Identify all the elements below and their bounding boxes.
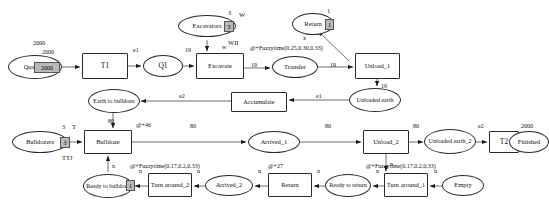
node-label: Q1	[158, 62, 167, 70]
node-label: Turn around_1	[387, 182, 426, 189]
lbl-t-bulldozers: T	[72, 123, 76, 130]
lbl-fuzzy27: @+27	[268, 163, 283, 169]
node-transfer[interactable]: Transfer	[272, 56, 318, 78]
node-label: Accumulate	[243, 99, 274, 106]
lbl-quantity-2000b: 2000	[42, 49, 54, 55]
lbl-fuzzy46: @+46	[136, 122, 151, 128]
node-return_bot[interactable]: Return	[268, 173, 312, 197]
node-label: Transfer	[284, 64, 306, 71]
lbl-n-bulldoze-down: n	[112, 163, 115, 169]
lbl-19-unload1: 19	[330, 62, 336, 68]
node-unload1[interactable]: Unload_1	[355, 53, 400, 79]
node-earthtobulldoze[interactable]: Earth to bulldoze	[88, 89, 140, 113]
lbl-wii: WII	[228, 39, 238, 46]
lbl-fuzzy-turn2: @+Fuzzytime(0.17,0.2,0.33)	[130, 163, 200, 169]
node-label: T2	[500, 138, 508, 146]
node-label: Earth to bulldoze	[93, 98, 134, 104]
lbl-80-unload2: 80	[325, 123, 331, 129]
node-label: Ready to return	[329, 182, 366, 188]
lbl-e2-right: e2	[478, 123, 484, 129]
node-label: Return	[304, 21, 322, 28]
node-label: Arrived_1	[261, 139, 288, 146]
lbl-19-transfer: 19	[251, 62, 257, 68]
node-label: Unloaded earth_2	[429, 138, 472, 144]
lbl-w-arrow: w	[222, 44, 226, 50]
lbl-3-bulldozers: 3	[62, 124, 65, 130]
lbl-e2-mid: e2	[179, 93, 185, 99]
lbl-e1-mid: e1	[316, 93, 322, 99]
lbl-fuzzy-top: @+Fuzzytime(0.25,0.30,0.33)	[250, 45, 323, 51]
node-turnaround1[interactable]: Turn around_1	[384, 173, 428, 197]
node-excavate[interactable]: Excavate	[196, 53, 244, 79]
lbl-80-arrived1: 80	[190, 123, 196, 129]
tok-excavators: 3	[224, 21, 234, 32]
node-label: Unloaded earth	[357, 97, 394, 103]
node-finished[interactable]: Finished	[509, 131, 549, 153]
node-label: Unload_2	[373, 139, 399, 146]
node-label: Return	[281, 182, 299, 189]
node-arrived1[interactable]: Arrived_1	[248, 131, 300, 153]
node-arrived2[interactable]: Arrived_2	[205, 175, 253, 196]
lbl-fuzzy-turn1: @+Fuzzytime(0.17,0.2,0.33)	[366, 163, 436, 169]
node-turnaround2[interactable]: Turn around_2	[148, 173, 192, 197]
lbl-80-bulldoze: 80	[108, 118, 114, 124]
node-label: Ready to bulldoze	[86, 183, 130, 189]
tok-return-top: 1	[325, 19, 334, 30]
node-unloadedearth2[interactable]: Unloaded earth_2	[424, 129, 476, 154]
node-unload2[interactable]: Unload_2	[363, 130, 409, 154]
node-q1[interactable]: Q1	[143, 55, 183, 77]
tok-quantity: 2000	[34, 62, 60, 73]
node-t1[interactable]: T1	[82, 53, 128, 79]
lbl-w-top: W	[239, 11, 245, 18]
lbl-ttj: TTJ	[62, 154, 72, 161]
node-label: Unload_1	[365, 63, 391, 70]
lbl-1-return: 1	[327, 8, 330, 14]
lbl-quantity-2000a: 2000	[33, 40, 45, 46]
node-label: T1	[101, 62, 109, 70]
node-label: Bulldozers	[26, 139, 54, 146]
node-label: Turn around_2	[151, 182, 190, 189]
lbl-19-unloaded: 19	[381, 83, 387, 89]
node-readytoreturn[interactable]: Ready to return	[325, 174, 371, 197]
lbl-e1-top: e1	[133, 47, 139, 53]
lbl-n-return-bot: n	[258, 168, 261, 174]
lbl-80-unloaded2: 80	[413, 123, 419, 129]
tok-readytobulldoze: 1	[126, 180, 135, 191]
node-label: Excavate	[208, 63, 232, 70]
node-empty[interactable]: Empty	[442, 175, 484, 196]
lbl-x-return: x	[303, 35, 306, 41]
lbl-n-readyreturn: n	[317, 168, 320, 174]
node-unloadedearth1[interactable]: Unloaded earth	[349, 88, 401, 112]
node-bulldoze[interactable]: Bulldoze	[84, 130, 132, 154]
node-label: Arrived_2	[216, 182, 243, 189]
lbl-19-q1: 19	[185, 47, 191, 53]
node-label: Finished	[518, 139, 540, 146]
node-label: Bulldoze	[96, 139, 119, 146]
node-label: Empty	[454, 182, 471, 189]
node-accumulate[interactable]: Accumulate	[231, 92, 287, 112]
tok-bulldozers: 3	[60, 137, 70, 148]
node-label: Excavators	[193, 23, 222, 30]
lbl-2000-finished: 2000	[521, 123, 533, 129]
lbl-3-excavators: 3	[228, 10, 231, 16]
